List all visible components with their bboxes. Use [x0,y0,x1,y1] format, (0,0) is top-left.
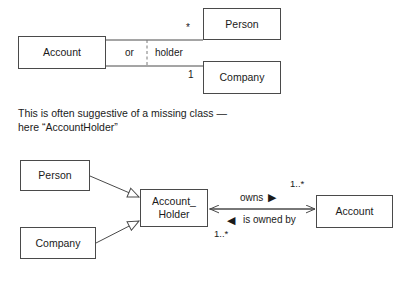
class-name-person-top: Person [225,18,258,31]
bottom-generalization-lines [90,176,139,243]
class-name-account-holder: Account_ Holder [152,195,196,221]
explanatory-note: This is often suggestive of a missing cl… [18,106,298,134]
class-name-company-bottom: Company [36,237,81,250]
direction-marker-owns-icon: ▶ [268,191,276,203]
class-name-account-top: Account [43,46,81,59]
class-box-company-bottom[interactable]: Company [20,227,96,259]
class-box-account-top[interactable]: Account [18,36,106,69]
class-name-account-holder-line1: Account_ [152,195,196,207]
association-label-is-owned-by: is owned by [243,214,296,226]
uml-diagram: Account Person Company or holder * 1 Thi… [0,0,413,284]
class-box-company-top[interactable]: Company [203,61,281,94]
class-box-person-bottom[interactable]: Person [20,160,90,191]
class-name-person-bottom: Person [38,169,71,182]
multiplicity-account-holder-end: 1..* [214,228,228,239]
gen-line-company [96,221,139,243]
multiplicity-account-end: 1..* [290,178,304,189]
class-box-person-top[interactable]: Person [203,8,281,40]
class-name-company-top: Company [220,71,265,84]
association-label-owns: owns [240,192,263,204]
xor-label: or [125,47,134,59]
class-box-account-bottom[interactable]: Account [316,195,393,228]
multiplicity-person-top: * [186,22,190,34]
direction-marker-is-owned-by-icon: ◀ [227,214,235,226]
class-box-account-holder[interactable]: Account_ Holder [140,189,208,227]
class-name-account-bottom: Account [336,205,374,218]
role-label-holder: holder [155,47,183,59]
gen-line-person [90,176,139,197]
multiplicity-company-top: 1 [188,69,194,81]
class-name-account-holder-line2: Holder [159,208,190,220]
